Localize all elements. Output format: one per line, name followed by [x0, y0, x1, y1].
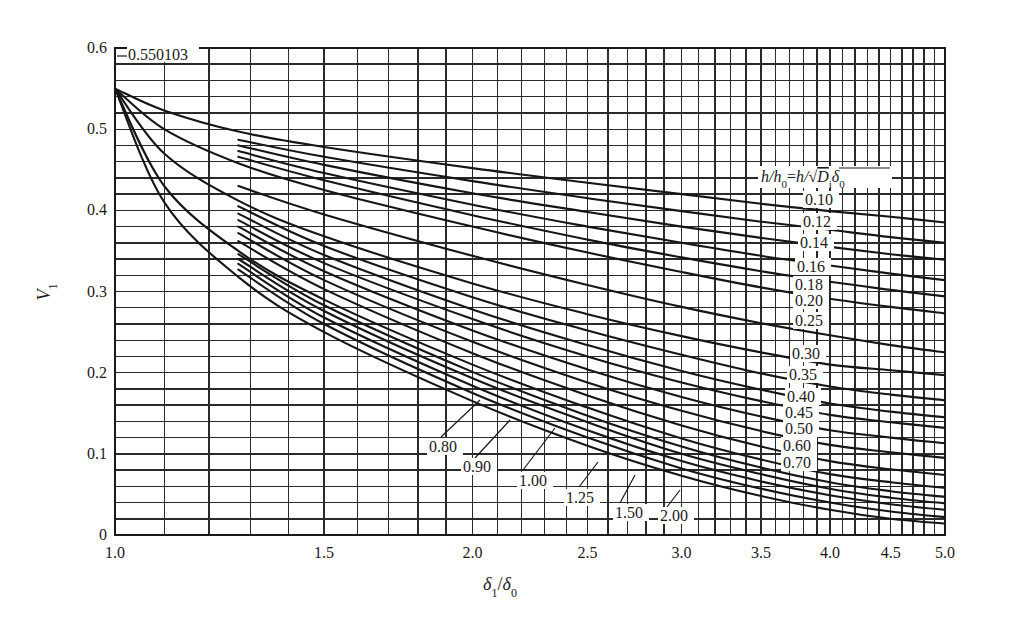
x-tick-label: 4.5	[881, 544, 901, 561]
curve-h-0.90	[238, 254, 945, 497]
curve-h-1.50	[238, 270, 945, 517]
curve-label: 0.80	[429, 438, 457, 455]
y-axis-title: V1	[34, 284, 60, 301]
curve-label: 1.00	[519, 472, 547, 489]
x-tick-label: 2.0	[462, 544, 482, 561]
curve-label: 0.40	[787, 388, 815, 405]
origin-annotation: 0.550103	[117, 44, 199, 63]
y-tick-label: 0.6	[87, 39, 107, 56]
y-tick-label: 0.5	[87, 120, 107, 137]
curve-label: 0.16	[797, 258, 825, 275]
y-tick-label: 0.2	[87, 364, 107, 381]
origin-value-label: 0.550103	[128, 46, 188, 63]
curve-label: 0.10	[805, 191, 833, 208]
curve-label: 0.14	[800, 234, 828, 251]
curve-label: 2.00	[660, 507, 688, 524]
y-tick-label: 0.4	[87, 201, 107, 218]
x-tick-label: 5.0	[935, 544, 955, 561]
curve-label: 0.35	[789, 366, 817, 383]
curve-label: 0.45	[785, 404, 813, 421]
x-tick-label: 4.0	[820, 544, 840, 561]
legend-title: h/h0=h/√Diδ0	[758, 166, 892, 190]
curve-label: 0.70	[783, 454, 811, 471]
chart: 1.01.52.02.53.03.54.04.55.000.10.20.30.4…	[0, 0, 1011, 637]
curve-h-1.00	[238, 259, 945, 503]
curve-label: 0.25	[795, 312, 823, 329]
x-axis-title: δ1/δ0	[483, 574, 517, 600]
curve-label: 0.20	[795, 292, 823, 309]
curve-label: 0.30	[792, 345, 820, 362]
x-tick-label: 1.0	[105, 544, 125, 561]
x-tick-label: 3.0	[672, 544, 692, 561]
y-tick-label: 0.3	[87, 283, 107, 300]
curve-label: 0.60	[783, 437, 811, 454]
x-tick-label: 1.5	[314, 544, 334, 561]
x-tick-label: 2.5	[578, 544, 598, 561]
curve-label: 0.90	[463, 458, 491, 475]
curve-label: 0.18	[795, 276, 823, 293]
curve-label: 0.12	[803, 213, 831, 230]
x-tick-label: 3.5	[751, 544, 771, 561]
y-tick-label: 0	[99, 526, 107, 543]
curve-label: 0.50	[785, 420, 813, 437]
curve-label: 1.25	[566, 489, 594, 506]
y-tick-label: 0.1	[87, 445, 107, 462]
curve-label: 1.50	[615, 504, 643, 521]
